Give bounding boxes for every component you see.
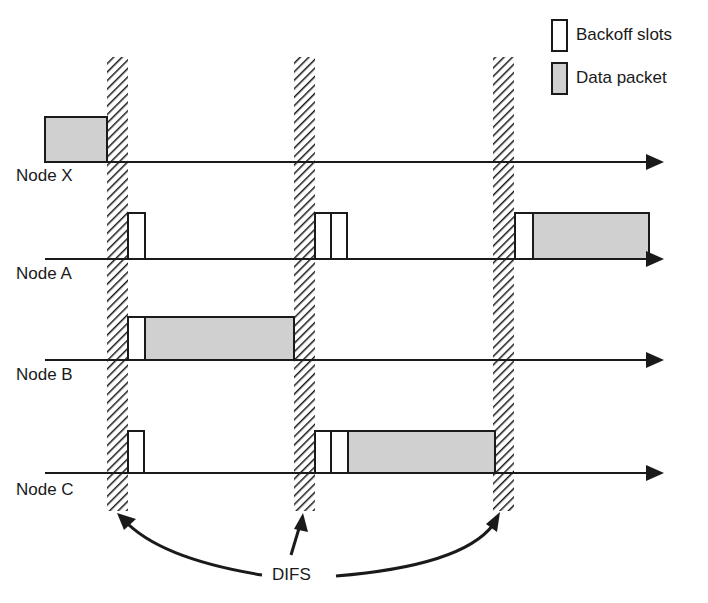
backoff-slot [128, 213, 145, 259]
node-b-label: Node B [16, 365, 73, 385]
arrow-icon [646, 251, 664, 267]
node-x-timeline [45, 117, 664, 170]
node-a-label: Node A [16, 264, 72, 284]
legend-backoff-label: Backoff slots [576, 25, 672, 45]
node-c-label: Node C [16, 480, 74, 500]
arrow-icon [646, 154, 664, 170]
difs-arrow-right [336, 525, 493, 576]
difs-bar-1 [107, 57, 128, 511]
legend-data-label: Data packet [576, 68, 667, 88]
data-packet [533, 213, 649, 259]
node-x-label: Node X [16, 166, 73, 186]
node-b-timeline [45, 317, 664, 368]
difs-label: DIFS [272, 565, 311, 585]
node-c-timeline [45, 431, 664, 481]
backoff-slot [128, 317, 145, 360]
data-packet [348, 431, 495, 473]
arrow-icon [646, 465, 664, 481]
arrow-icon [294, 513, 308, 532]
difs-bar-2 [294, 57, 315, 511]
csma-ca-timing-diagram [0, 0, 708, 603]
legend-data-swatch [552, 63, 567, 94]
arrow-icon [646, 352, 664, 368]
backoff-slot [128, 431, 144, 473]
backoff-slot [331, 431, 348, 473]
backoff-slot [315, 213, 331, 259]
node-a-timeline [45, 213, 664, 267]
backoff-slot [515, 213, 533, 259]
difs-bar-3 [493, 57, 514, 511]
backoff-slot [331, 213, 347, 259]
difs-arrow-left [124, 520, 262, 575]
backoff-slot [315, 431, 331, 473]
data-packet [45, 117, 107, 162]
legend-backoff-swatch [552, 20, 567, 51]
data-packet [145, 317, 294, 360]
